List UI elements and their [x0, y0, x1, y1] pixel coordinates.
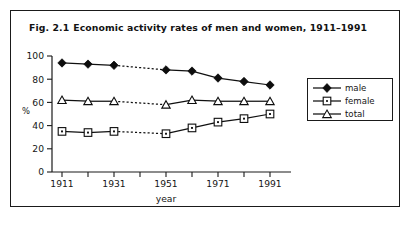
data-point-marker-dot	[113, 130, 115, 132]
series-segment	[114, 101, 166, 104]
data-point-marker-dot	[191, 127, 193, 129]
data-point-marker-dot	[87, 132, 89, 134]
open-square-icon	[312, 95, 342, 107]
legend-item-male[interactable]: male	[312, 82, 366, 94]
data-point-marker	[58, 59, 66, 67]
x-tick-label-1991: 1991	[258, 178, 281, 189]
legend-item-total[interactable]: total	[312, 108, 365, 120]
data-point-marker	[266, 81, 274, 89]
y-axis-title: %	[22, 106, 30, 116]
data-point-marker	[240, 77, 248, 85]
legend-item-female[interactable]: female	[312, 95, 375, 107]
series-female	[58, 110, 274, 137]
x-axis-title: year	[156, 193, 177, 204]
data-point-marker	[84, 60, 92, 68]
series-total	[58, 96, 274, 108]
chart-legend: male female total	[307, 78, 393, 121]
y-tick-label-80: 80	[32, 74, 44, 85]
series-segment	[114, 65, 166, 70]
data-point-marker-dot	[165, 133, 167, 135]
legend-label-male: male	[345, 83, 366, 93]
series-segment	[62, 100, 88, 101]
x-tick-label-1951: 1951	[154, 178, 177, 189]
legend-label-total: total	[345, 109, 365, 119]
series-layer	[58, 59, 274, 138]
data-point-marker-dot	[243, 118, 245, 120]
x-tick-label-1971: 1971	[206, 178, 229, 189]
series-segment	[192, 71, 218, 78]
data-point-marker-dot	[61, 130, 63, 132]
data-point-marker	[188, 67, 196, 75]
data-point-marker-dot	[269, 113, 271, 115]
x-axis: 1911 1931 1951 1971 1991	[50, 172, 291, 189]
legend-label-female: female	[345, 96, 375, 106]
y-tick-label-20: 20	[32, 143, 44, 154]
filled-diamond-icon	[312, 82, 342, 94]
x-tick-label-1911: 1911	[50, 178, 73, 189]
y-axis: 100 80 60 40 20 0	[26, 50, 52, 177]
y-tick-label-100: 100	[26, 50, 44, 61]
data-point-marker	[110, 61, 118, 69]
series-male	[58, 59, 274, 89]
x-tick-label-1931: 1931	[102, 178, 125, 189]
series-segment	[192, 100, 218, 101]
y-tick-label-40: 40	[32, 120, 44, 131]
data-point-marker	[214, 74, 222, 82]
figure-frame: Fig. 2.1Economic activity rates of men a…	[10, 10, 400, 207]
y-tick-label-60: 60	[32, 97, 44, 108]
data-point-marker-dot	[217, 121, 219, 123]
open-triangle-icon	[312, 108, 342, 120]
series-segment	[114, 131, 166, 133]
data-point-marker	[162, 66, 170, 74]
y-tick-label-0: 0	[38, 166, 44, 177]
